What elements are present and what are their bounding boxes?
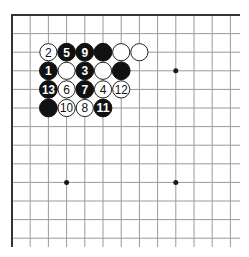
white-stone xyxy=(58,62,75,79)
white-stone: 12 xyxy=(113,81,130,98)
white-stone: 4 xyxy=(94,81,111,98)
black-stone xyxy=(112,62,130,80)
black-stone: 1 xyxy=(40,62,58,80)
black-stone: 13 xyxy=(40,81,58,99)
move-number: 1 xyxy=(45,64,52,78)
star-point xyxy=(173,180,178,185)
move-number: 3 xyxy=(81,64,88,78)
star-point xyxy=(64,180,69,185)
stones: 25913136741210811 xyxy=(40,43,148,117)
black-stone xyxy=(94,43,112,61)
star-point xyxy=(173,68,178,73)
black-stone: 11 xyxy=(94,99,112,117)
move-number: 6 xyxy=(63,83,70,97)
white-stone: 8 xyxy=(76,99,93,116)
move-number: 13 xyxy=(42,83,55,97)
white-stone: 2 xyxy=(40,44,57,61)
move-number: 4 xyxy=(100,83,107,97)
white-stone: 6 xyxy=(58,81,75,98)
move-number: 9 xyxy=(81,46,88,60)
black-stone: 3 xyxy=(76,62,94,80)
white-stone: 10 xyxy=(58,99,75,116)
black-stone: 9 xyxy=(76,43,94,61)
move-number: 11 xyxy=(97,101,110,115)
move-number: 10 xyxy=(60,101,73,115)
move-number: 8 xyxy=(81,101,88,115)
move-number: 7 xyxy=(81,83,88,97)
black-stone: 7 xyxy=(76,81,94,99)
move-number: 2 xyxy=(45,46,52,60)
black-stone xyxy=(40,99,58,117)
white-stone xyxy=(113,44,130,61)
black-stone: 5 xyxy=(58,43,76,61)
go-board: 25913136741210811 xyxy=(0,0,249,257)
move-number: 5 xyxy=(63,46,70,60)
white-stone xyxy=(94,62,111,79)
move-number: 12 xyxy=(115,83,128,97)
white-stone xyxy=(131,44,148,61)
